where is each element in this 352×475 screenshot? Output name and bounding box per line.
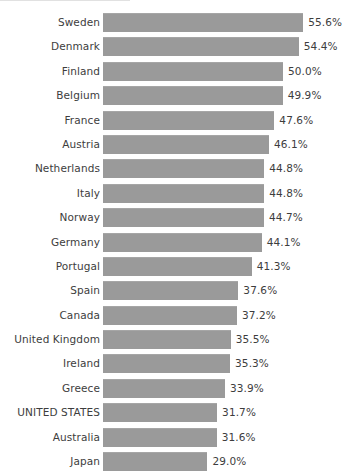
bar-container [103, 184, 264, 203]
bar-row: Sweden55.6% [0, 13, 352, 32]
top-edge-rule [0, 0, 130, 1]
bar-row: Canada37.2% [0, 306, 352, 325]
bar-row: Germany44.1% [0, 233, 352, 252]
bar [103, 13, 303, 32]
bar-row: Netherlands44.8% [0, 159, 352, 178]
bar-row: UNITED STATES31.7% [0, 403, 352, 422]
category-label: Greece [0, 379, 100, 398]
chart-plot-area: Sweden55.6%Denmark54.4%Finland50.0%Belgi… [0, 13, 352, 475]
bar [103, 452, 207, 471]
bar-row: Italy44.8% [0, 184, 352, 203]
value-label: 46.1% [274, 135, 308, 154]
bar-container [103, 159, 264, 178]
value-label: 55.6% [308, 13, 342, 32]
bar-container [103, 403, 217, 422]
category-label: Norway [0, 208, 100, 227]
value-label: 44.1% [267, 233, 301, 252]
category-label: France [0, 111, 100, 130]
bar [103, 135, 269, 154]
bar-container [103, 62, 283, 81]
value-label: 49.9% [288, 86, 322, 105]
bar [103, 330, 231, 349]
category-label: Spain [0, 281, 100, 300]
value-label: 35.3% [235, 354, 269, 373]
value-label: 44.8% [269, 159, 303, 178]
category-label: UNITED STATES [0, 403, 100, 422]
category-label: Portugal [0, 257, 100, 276]
category-label: Denmark [0, 37, 100, 56]
value-label: 31.7% [222, 403, 256, 422]
bar-container [103, 306, 237, 325]
bar-container [103, 452, 207, 471]
category-label: Finland [0, 62, 100, 81]
value-label: 44.7% [269, 208, 303, 227]
category-label: Sweden [0, 13, 100, 32]
bar-row: United Kingdom35.5% [0, 330, 352, 349]
category-label: Australia [0, 428, 100, 447]
bar-row: Japan29.0% [0, 452, 352, 471]
bar [103, 306, 237, 325]
value-label: 29.0% [212, 452, 246, 471]
bar-container [103, 208, 264, 227]
bar [103, 159, 264, 178]
bar-row: Austria46.1% [0, 135, 352, 154]
bar-container [103, 37, 299, 56]
bar-row: Australia31.6% [0, 428, 352, 447]
bar [103, 208, 264, 227]
category-label: Netherlands [0, 159, 100, 178]
bar-row: France47.6% [0, 111, 352, 130]
bar-row: Denmark54.4% [0, 37, 352, 56]
value-label: 44.8% [269, 184, 303, 203]
category-label: Germany [0, 233, 100, 252]
bar-row: Spain37.6% [0, 281, 352, 300]
bar [103, 111, 274, 130]
bar [103, 62, 283, 81]
bar [103, 86, 283, 105]
bar-row: Greece33.9% [0, 379, 352, 398]
value-label: 37.2% [242, 306, 276, 325]
bar [103, 257, 252, 276]
value-label: 50.0% [288, 62, 322, 81]
bar-container [103, 354, 230, 373]
bar-container [103, 86, 283, 105]
bar-container [103, 135, 269, 154]
value-label: 54.4% [304, 37, 338, 56]
bar-container [103, 379, 225, 398]
bar-row: Ireland35.3% [0, 354, 352, 373]
category-label: Canada [0, 306, 100, 325]
bar [103, 281, 238, 300]
category-label: United Kingdom [0, 330, 100, 349]
bar-row: Portugal41.3% [0, 257, 352, 276]
category-label: Italy [0, 184, 100, 203]
bar [103, 379, 225, 398]
category-label: Belgium [0, 86, 100, 105]
bar-container [103, 281, 238, 300]
value-label: 41.3% [257, 257, 291, 276]
category-label: Ireland [0, 354, 100, 373]
bar [103, 428, 217, 447]
bar-row: Finland50.0% [0, 62, 352, 81]
bar-container [103, 111, 274, 130]
value-label: 37.6% [243, 281, 277, 300]
bar-row: Belgium49.9% [0, 86, 352, 105]
category-label: Austria [0, 135, 100, 154]
bar-container [103, 257, 252, 276]
bar-row: Norway44.7% [0, 208, 352, 227]
value-label: 33.9% [230, 379, 264, 398]
bar-container [103, 428, 217, 447]
category-label: Japan [0, 452, 100, 471]
bar [103, 354, 230, 373]
bar-container [103, 233, 262, 252]
bar [103, 37, 299, 56]
bar [103, 233, 262, 252]
value-label: 31.6% [222, 428, 256, 447]
bar-container [103, 13, 303, 32]
value-label: 35.5% [236, 330, 270, 349]
value-label: 47.6% [279, 111, 313, 130]
bar [103, 403, 217, 422]
bar [103, 184, 264, 203]
bar-container [103, 330, 231, 349]
